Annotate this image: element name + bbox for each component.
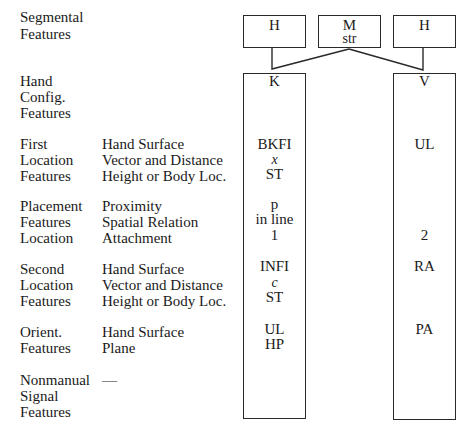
first-location-hand-surface: BKFI [244, 137, 305, 152]
placement-attachment: 1 [244, 228, 305, 243]
second-location-vector: c [244, 275, 305, 290]
second-location-height: ST [244, 290, 305, 305]
segment-label: H [394, 18, 455, 33]
second-location-hand-surface: RA [394, 259, 455, 274]
orient-hand-surface: PA [394, 322, 455, 337]
first-location-hand-surface: UL [394, 137, 455, 152]
second-location-hand-surface: INFI [244, 259, 305, 274]
placement-spatial-relation: in line [244, 212, 305, 227]
orient-hand-surface: UL [244, 322, 305, 337]
first-location-vector: x [244, 152, 305, 167]
segment-box-h-right: H [393, 15, 456, 48]
placement-attachment: 2 [394, 228, 455, 243]
feature-column-right: V UL 2 RA PA [393, 73, 456, 420]
hand-config-value: K [244, 74, 305, 89]
first-location-height: ST [244, 167, 305, 182]
feature-column-left: K BKFI x ST p in line 1 INFI c ST UL HP [243, 73, 306, 419]
orient-plane: HP [244, 337, 305, 352]
segment-sublabel: str [319, 31, 380, 46]
segment-box-h-left: H [243, 15, 306, 48]
segment-label: H [244, 18, 305, 33]
hand-config-value: V [394, 74, 455, 89]
placement-proximity: p [244, 197, 305, 212]
segment-box-m: M str [318, 15, 381, 48]
